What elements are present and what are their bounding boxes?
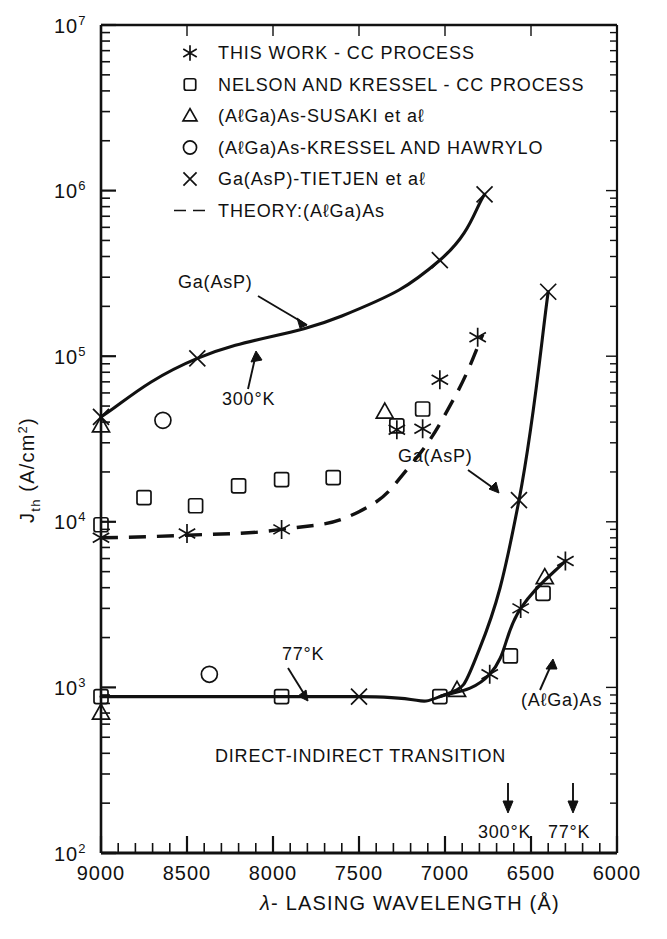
svg-text:77°K: 77°K <box>548 822 590 842</box>
legend: THIS WORK - CC PROCESSNELSON AND KRESSEL… <box>174 43 584 221</box>
data-point <box>414 419 430 438</box>
svg-text:77°K: 77°K <box>282 644 324 664</box>
annotation-transition-77k: 77°K <box>548 783 590 842</box>
marker-square <box>416 402 430 416</box>
data-curves <box>101 194 565 701</box>
data-point <box>376 403 393 418</box>
svg-text:Jth (A/cm2): Jth (A/cm2) <box>15 417 43 523</box>
svg-text:300°K: 300°K <box>222 389 275 409</box>
arrow-head <box>297 318 307 328</box>
legend-item-label: THEORY:(AℓGa)As <box>218 201 385 221</box>
data-point <box>432 252 448 268</box>
marker-triangle <box>183 109 197 121</box>
x-ticklabel: 8500 <box>163 862 212 884</box>
data-point <box>137 491 151 505</box>
marker-asterisk <box>432 370 448 389</box>
marker-cross <box>432 252 448 268</box>
marker-square <box>503 649 517 663</box>
y-axis-tick-labels: 107 106 105 104 103 102 <box>54 13 86 865</box>
marker-cross <box>477 186 493 202</box>
marker-asterisk <box>183 45 196 61</box>
marker-square <box>232 479 246 493</box>
chart-svg: 107 106 105 104 103 102 9000850080007500… <box>0 0 667 939</box>
legend-item-label: THIS WORK - CC PROCESS <box>218 43 475 63</box>
marker-circle <box>183 141 196 154</box>
y-axis-title: Jth (A/cm2) <box>15 417 43 523</box>
legend-item-label: NELSON AND KRESSEL - CC PROCESS <box>218 75 584 95</box>
x-ticklabel: 6500 <box>507 862 556 884</box>
svg-text:Ga(AsP): Ga(AsP) <box>398 446 473 466</box>
curve-solid <box>101 194 485 417</box>
data-point <box>189 499 203 513</box>
legend-item: (AℓGa)As-SUSAKI et aℓ <box>183 106 425 126</box>
data-point <box>416 402 430 416</box>
data-markers <box>93 186 574 719</box>
arrow-head <box>503 801 513 813</box>
svg-text:Ga(AsP): Ga(AsP) <box>178 272 253 292</box>
x-axis-tick-labels: 9000850080007500700065006000 <box>77 862 642 884</box>
annotation-ga-asp-300k: Ga(AsP) <box>178 272 307 328</box>
x-ticklabel: 8000 <box>249 862 298 884</box>
marker-square <box>326 471 340 485</box>
y-ticklabel-1e7: 107 <box>54 13 86 37</box>
x-ticklabel: 7500 <box>335 862 384 884</box>
marker-square <box>137 491 151 505</box>
legend-item: NELSON AND KRESSEL - CC PROCESS <box>184 75 584 95</box>
annotation-transition-300k: 300°K <box>478 783 531 842</box>
y-ticklabel-1e3: 103 <box>54 675 86 699</box>
marker-asterisk <box>414 419 430 438</box>
marker-cross <box>183 172 196 185</box>
data-point <box>432 370 448 389</box>
marker-circle <box>201 666 217 682</box>
data-point <box>232 479 246 493</box>
annotation-direct-indirect-transition: DIRECT-INDIRECT TRANSITION <box>215 746 506 766</box>
legend-item: THEORY:(AℓGa)As <box>174 201 385 221</box>
svg-text:(AℓGa)As: (AℓGa)As <box>521 690 602 710</box>
marker-triangle <box>376 403 393 418</box>
data-point <box>189 350 205 366</box>
marker-square <box>189 499 203 513</box>
data-point <box>155 412 171 428</box>
legend-item: Ga(AsP)-TIETJEN et aℓ <box>183 169 425 189</box>
marker-cross <box>189 350 205 366</box>
marker-square <box>184 79 195 90</box>
annotation-algaas: (AℓGa)As <box>521 659 602 710</box>
arrow-head <box>546 659 557 669</box>
legend-item: THIS WORK - CC PROCESS <box>183 43 475 63</box>
data-point <box>201 666 217 682</box>
arrow-head <box>489 482 499 493</box>
legend-item-label: Ga(AsP)-TIETJEN et aℓ <box>218 169 426 189</box>
data-point <box>503 649 517 663</box>
data-point <box>477 186 493 202</box>
svg-text:300°K: 300°K <box>478 822 531 842</box>
annotation-ga-asp-77k: Ga(AsP) <box>398 446 499 493</box>
data-point <box>326 471 340 485</box>
arrow-head <box>298 690 308 701</box>
data-point <box>389 420 405 439</box>
marker-asterisk <box>389 420 405 439</box>
y-ticklabel-1e6: 106 <box>54 178 86 202</box>
arrow-head <box>568 801 578 813</box>
marker-circle <box>155 412 171 428</box>
legend-item-label: (AℓGa)As-SUSAKI et aℓ <box>218 106 425 126</box>
marker-square <box>275 473 289 487</box>
annotation-300k-upper: 300°K <box>222 351 275 409</box>
legend-item: (AℓGa)As-KRESSEL AND HAWRYLO <box>183 138 543 158</box>
x-axis-title: λ- LASING WAVELENGTH (Å) <box>259 892 560 914</box>
legend-item-label: (AℓGa)As-KRESSEL AND HAWRYLO <box>218 138 543 158</box>
x-ticklabel: 7000 <box>421 862 470 884</box>
arrow-head <box>251 351 262 362</box>
y-ticklabel-1e5: 105 <box>54 344 86 368</box>
data-point <box>275 473 289 487</box>
y-ticklabel-1e4: 104 <box>54 509 86 533</box>
curve-dashed <box>101 335 483 538</box>
figure-container: 107 106 105 104 103 102 9000850080007500… <box>0 0 667 939</box>
x-ticklabel: 6000 <box>593 862 642 884</box>
curve-solid <box>101 292 548 701</box>
x-ticklabel: 9000 <box>77 862 126 884</box>
